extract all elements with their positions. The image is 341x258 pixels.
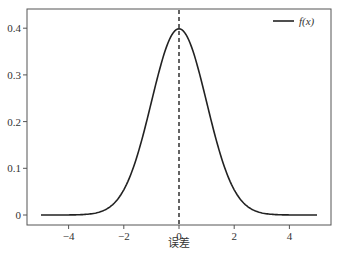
x-tick-label: −2 bbox=[118, 230, 130, 242]
x-axis-label: 误差 bbox=[168, 236, 190, 250]
x-tick-label: −4 bbox=[63, 230, 75, 242]
chart: −4−2024 00.10.20.30.4 误差 f(x) bbox=[0, 0, 341, 258]
x-tick-label: 2 bbox=[231, 230, 237, 242]
y-tick-label: 0 bbox=[16, 209, 22, 221]
legend: f(x) bbox=[273, 15, 315, 28]
y-tick-label: 0.1 bbox=[7, 162, 21, 174]
legend-label: f(x) bbox=[299, 15, 315, 28]
y-axis-ticks: 00.10.20.30.4 bbox=[7, 22, 27, 221]
x-tick-label: 4 bbox=[287, 230, 293, 242]
y-tick-label: 0.3 bbox=[7, 69, 21, 81]
y-tick-label: 0.4 bbox=[7, 22, 21, 34]
y-tick-label: 0.2 bbox=[7, 116, 21, 128]
